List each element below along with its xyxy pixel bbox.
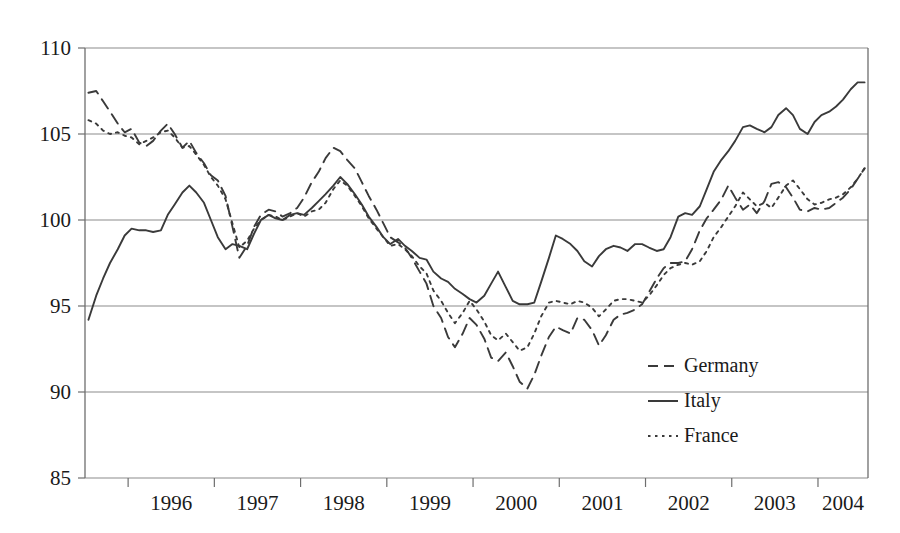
y-axis-label-105: 105 <box>40 122 72 146</box>
line-chart: 859095100105110 199619971998199920002001… <box>0 0 900 533</box>
gridlines-group <box>85 48 868 478</box>
legend-label-germany: Germany <box>684 354 758 377</box>
x-axis-label-2002: 2002 <box>668 491 710 515</box>
x-axis-label-1996: 1996 <box>150 491 192 515</box>
chart-container: 859095100105110 199619971998199920002001… <box>0 0 900 533</box>
x-axis-label-2001: 2001 <box>581 491 623 515</box>
legend-label-italy: Italy <box>684 389 721 412</box>
x-axis-label-1997: 1997 <box>236 491 278 515</box>
y-axis-label-95: 95 <box>50 294 71 318</box>
y-axis-labels-group: 859095100105110 <box>40 36 72 490</box>
series-line-france <box>88 120 864 350</box>
x-axis-label-2003: 2003 <box>754 491 796 515</box>
tickmarks-group <box>78 48 818 487</box>
y-axis-label-85: 85 <box>50 466 71 490</box>
x-axis-label-1999: 1999 <box>409 491 451 515</box>
legend: GermanyItalyFrance <box>648 354 758 446</box>
data-series-group <box>88 82 864 388</box>
x-axis-labels-group: 199619971998199920002001200220032004 <box>150 491 864 515</box>
x-axis-label-2000: 2000 <box>495 491 537 515</box>
series-line-italy <box>88 82 864 319</box>
series-line-germany <box>88 91 864 389</box>
y-axis-label-90: 90 <box>50 380 71 404</box>
x-axis-label-2004: 2004 <box>822 491 865 515</box>
y-axis-label-100: 100 <box>40 208 72 232</box>
y-axis-label-110: 110 <box>40 36 71 60</box>
x-axis-label-1998: 1998 <box>323 491 365 515</box>
legend-label-france: France <box>684 424 739 446</box>
